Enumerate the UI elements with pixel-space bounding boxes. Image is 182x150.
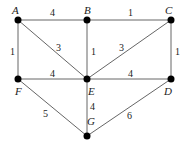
- edge-weight-b-e: 1: [91, 46, 96, 57]
- node-label-f: F: [14, 85, 22, 97]
- edge-weight-f-g: 5: [43, 108, 48, 119]
- edge-weights-group: 411313144456: [10, 7, 180, 121]
- node-a: [15, 17, 22, 24]
- node-label-d: D: [163, 85, 172, 97]
- edge-weight-d-g: 6: [127, 110, 132, 121]
- node-b: [84, 17, 91, 24]
- edge-weight-a-b: 4: [50, 7, 55, 18]
- edge-weight-a-f: 1: [10, 46, 15, 57]
- edge-weight-a-e: 3: [56, 42, 61, 53]
- node-label-e: E: [87, 85, 95, 97]
- edge-weight-b-c: 1: [128, 7, 133, 18]
- edge-weight-e-g: 4: [90, 101, 95, 112]
- edge-weight-c-d: 1: [175, 46, 180, 57]
- edge-weight-e-d: 4: [128, 68, 133, 79]
- edge-d-g: [87, 79, 171, 136]
- node-label-a: A: [11, 4, 19, 16]
- node-label-g: G: [87, 115, 95, 127]
- node-c: [168, 17, 175, 24]
- node-label-c: C: [165, 4, 173, 16]
- weighted-graph-diagram: 411313144456 ABCFEDG: [0, 0, 182, 150]
- node-f: [15, 76, 22, 83]
- node-g: [84, 133, 91, 140]
- edge-weight-f-e: 4: [50, 68, 55, 79]
- node-d: [168, 76, 175, 83]
- node-e: [84, 76, 91, 83]
- edge-f-g: [18, 79, 87, 136]
- edge-weight-c-e: 3: [119, 42, 124, 53]
- node-label-b: B: [84, 4, 91, 16]
